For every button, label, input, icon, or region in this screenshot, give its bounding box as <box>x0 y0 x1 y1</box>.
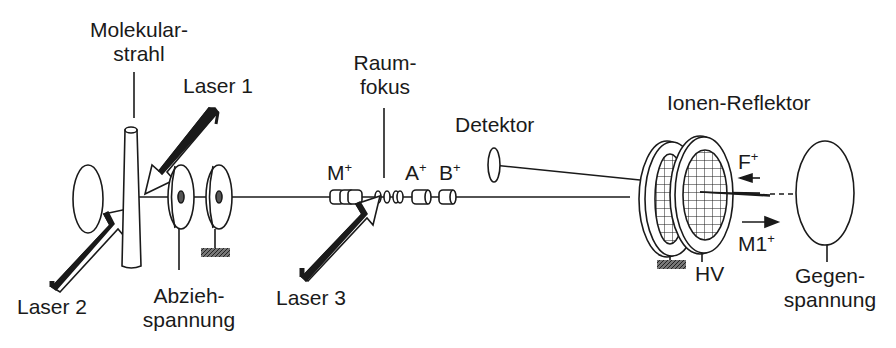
ion-packet-b <box>439 190 456 204</box>
label-detektor: Detektor <box>455 113 534 137</box>
laser-3-arrow <box>302 196 380 281</box>
extraction-electrode <box>168 165 194 270</box>
repeller-plate <box>73 165 103 233</box>
label-molekularstrahl: Molekular- strahl <box>84 18 194 66</box>
m1-ion-arrow <box>742 217 778 227</box>
molecular-beam-nozzle <box>122 72 141 268</box>
label-b-ion: B+ <box>439 161 461 185</box>
label-laser-1: Laser 1 <box>183 74 253 98</box>
label-m1-ion: M1+ <box>738 232 775 256</box>
counter-voltage-electrode <box>796 141 854 245</box>
label-f-ion: F+ <box>738 150 758 174</box>
label-ionen-reflektor: Ionen-Reflektor <box>667 91 811 115</box>
ion-packet-m <box>330 190 362 204</box>
f-ion-arrow <box>740 174 760 182</box>
label-m-ion: M+ <box>327 161 352 185</box>
grounded-electrode <box>201 165 232 257</box>
diagram-canvas: Molekular- strahl Laser 1 Laser 2 Abzieh… <box>0 0 896 348</box>
label-laser-3: Laser 3 <box>276 286 346 310</box>
label-hv: HV <box>695 262 724 286</box>
label-a-ion: A+ <box>405 161 427 185</box>
reflected-ion-path <box>493 165 640 180</box>
detector <box>488 148 500 182</box>
ion-packet-a <box>412 190 431 204</box>
label-abziehspannung: Abzieh- spannung <box>133 284 245 332</box>
label-gegenspannung: Gegen- spannung <box>775 264 885 312</box>
label-raumfokus: Raum- fokus <box>350 51 420 99</box>
label-laser-2: Laser 2 <box>17 295 87 319</box>
